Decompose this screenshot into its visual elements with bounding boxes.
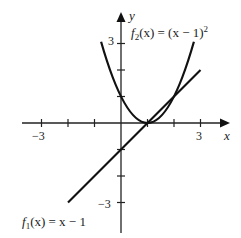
function-graph: −3 3 3 −3 x y f2(x) = (x − 1)2 f1(x) = x… bbox=[0, 0, 241, 238]
f2-parabola bbox=[101, 42, 194, 123]
axes bbox=[22, 18, 224, 233]
f2-label: f2(x) = (x − 1)2 bbox=[131, 24, 208, 42]
f1-line bbox=[68, 70, 201, 203]
x-tick-label-neg3: −3 bbox=[32, 129, 45, 143]
y-tick-label-3: 3 bbox=[108, 34, 114, 48]
x-axis-label: x bbox=[223, 128, 230, 143]
x-axis-arrow-icon bbox=[220, 119, 230, 128]
x-tick-label-3: 3 bbox=[196, 129, 202, 143]
y-axis-arrow-icon bbox=[117, 12, 126, 22]
y-tick-label-neg3: −3 bbox=[98, 197, 111, 211]
f1-label: f1(x) = x − 1 bbox=[22, 214, 86, 231]
y-axis-label: y bbox=[127, 8, 135, 23]
